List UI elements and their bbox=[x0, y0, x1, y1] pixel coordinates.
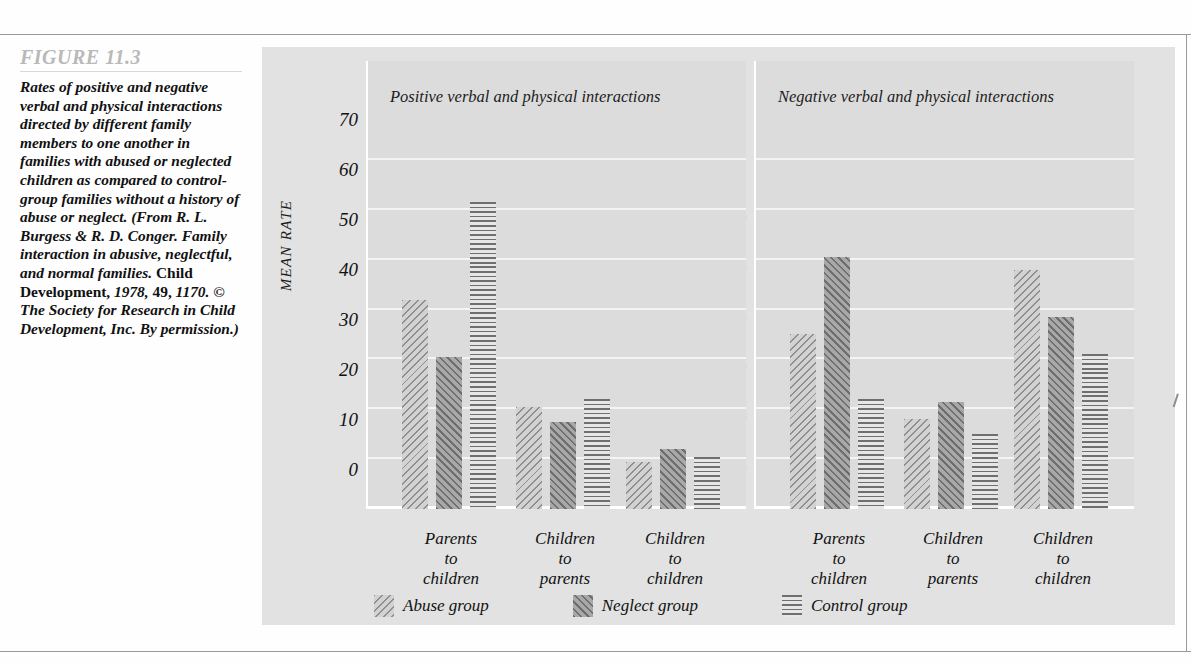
legend-swatch-abuse-icon bbox=[374, 595, 394, 617]
legend-item-abuse: Abuse group bbox=[374, 595, 489, 617]
gridline-60 bbox=[368, 208, 746, 210]
figure-root: FIGURE 11.3 Rates of positive and negati… bbox=[0, 0, 1191, 663]
bar bbox=[470, 202, 496, 509]
figure-label-underline bbox=[20, 71, 242, 72]
gridline-60 bbox=[756, 208, 1134, 210]
legend-swatch-neglect-icon bbox=[573, 595, 593, 617]
bar bbox=[436, 357, 462, 509]
gridline-70 bbox=[368, 158, 746, 160]
top-divider-rule bbox=[0, 34, 1191, 35]
legend-label-control: Control group bbox=[811, 596, 908, 616]
y-tick-0: 0 bbox=[312, 459, 358, 481]
bar bbox=[858, 399, 884, 509]
bar bbox=[694, 457, 720, 509]
x-label-left-2-line1: Children bbox=[600, 529, 750, 549]
bar bbox=[660, 449, 686, 509]
caption-column: FIGURE 11.3 Rates of positive and negati… bbox=[18, 46, 242, 338]
bar bbox=[1014, 270, 1040, 509]
panel-negative-interactions: Negative verbal and physical interaction… bbox=[756, 61, 1134, 509]
figure-label: FIGURE 11.3 bbox=[20, 46, 242, 69]
x-label-right-2: Children to children bbox=[988, 529, 1138, 589]
bar bbox=[1048, 317, 1074, 509]
y-tick-60: 60 bbox=[312, 159, 358, 181]
caption-part-2: 1978, bbox=[110, 283, 152, 300]
legend-label-abuse: Abuse group bbox=[403, 596, 489, 616]
bar bbox=[1082, 354, 1108, 509]
gridline-70 bbox=[756, 158, 1134, 160]
page-edge-tick-mark bbox=[1164, 391, 1179, 408]
chart-legend: Abuse group Neglect group Control group bbox=[374, 595, 907, 617]
x-label-left-2-line2: to bbox=[600, 549, 750, 569]
bar bbox=[938, 402, 964, 509]
y-tick-70: 70 bbox=[312, 109, 358, 131]
gridline-40 bbox=[756, 308, 1134, 310]
panel-left-title: Positive verbal and physical interaction… bbox=[390, 87, 660, 107]
x-label-left-2: Children to children bbox=[600, 529, 750, 589]
y-axis-title: MEAN RATE bbox=[278, 186, 295, 306]
legend-item-control: Control group bbox=[782, 595, 908, 617]
bar bbox=[972, 434, 998, 509]
bar bbox=[790, 334, 816, 509]
x-label-right-2-line1: Children bbox=[988, 529, 1138, 549]
y-tick-10: 10 bbox=[312, 409, 358, 431]
bar bbox=[584, 399, 610, 509]
plot-area-right bbox=[756, 135, 1134, 509]
bottom-divider-rule bbox=[0, 651, 1191, 652]
x-label-left-2-line3: children bbox=[600, 569, 750, 589]
chart-card: MEAN RATE 70 60 50 40 30 20 10 0 50 40 3… bbox=[262, 47, 1175, 625]
right-divider-rule bbox=[1186, 34, 1187, 652]
bar bbox=[550, 422, 576, 509]
plot-area-left bbox=[368, 135, 746, 509]
bar bbox=[904, 419, 930, 509]
caption-part-1: Rates of positive and negative verbal an… bbox=[20, 78, 239, 281]
y-tick-20: 20 bbox=[312, 359, 358, 381]
caption-volume: 49, bbox=[153, 283, 172, 300]
bar bbox=[516, 407, 542, 509]
y-tick-40: 40 bbox=[312, 259, 358, 281]
y-axis: MEAN RATE 70 60 50 40 30 20 10 0 bbox=[262, 47, 368, 509]
legend-swatch-control-icon bbox=[782, 595, 802, 617]
panel-positive-interactions: Positive verbal and physical interaction… bbox=[368, 61, 746, 509]
bar bbox=[402, 300, 428, 509]
bar bbox=[824, 257, 850, 509]
y-tick-30: 30 bbox=[312, 309, 358, 331]
x-label-right-2-line3: children bbox=[988, 569, 1138, 589]
gridline-50 bbox=[368, 258, 746, 260]
y-tick-50: 50 bbox=[312, 209, 358, 231]
figure-caption: Rates of positive and negative verbal an… bbox=[20, 78, 242, 338]
gridline-50 bbox=[756, 258, 1134, 260]
legend-label-neglect: Neglect group bbox=[602, 596, 698, 616]
x-label-right-2-line2: to bbox=[988, 549, 1138, 569]
legend-item-neglect: Neglect group bbox=[573, 595, 698, 617]
panel-right-title: Negative verbal and physical interaction… bbox=[778, 87, 1054, 107]
bar bbox=[626, 462, 652, 509]
